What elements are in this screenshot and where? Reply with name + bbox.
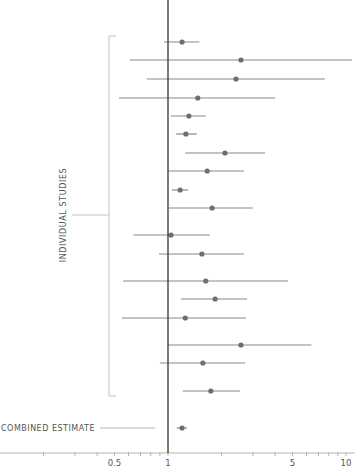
point-estimate (195, 95, 200, 100)
study-row (176, 131, 197, 136)
forest-plot: 0.51510 INDIVIDUAL STUDIES COMBINED ESTI… (0, 0, 355, 474)
study-row (185, 150, 265, 155)
study-row (130, 57, 352, 62)
study-row (183, 388, 240, 393)
study-row (171, 113, 206, 118)
study-row (159, 251, 244, 256)
study-row (160, 360, 245, 365)
individual-studies-bracket (72, 36, 116, 396)
point-estimate (168, 232, 173, 237)
combined-estimate-label: COMBINED ESTIMATE (1, 424, 95, 433)
point-estimate (238, 57, 243, 62)
individual-studies-label: INDIVIDUAL STUDIES (59, 168, 68, 262)
study-row (181, 296, 247, 301)
point-estimate (208, 388, 213, 393)
study-row (172, 187, 189, 192)
point-estimate (205, 168, 210, 173)
study-row (147, 76, 325, 81)
point-estimate (210, 205, 215, 210)
point-estimate (183, 131, 188, 136)
study-row (134, 232, 210, 237)
study-row (169, 205, 253, 210)
x-tick-label: 5 (290, 458, 295, 468)
x-tick-label: 10 (341, 458, 352, 468)
study-row (164, 39, 199, 44)
study-row (168, 342, 312, 347)
point-estimate (213, 296, 218, 301)
point-estimate (178, 187, 183, 192)
x-tick-label: 1 (165, 458, 170, 468)
point-estimate (238, 342, 243, 347)
study-row (168, 168, 244, 173)
point-estimate (233, 76, 238, 81)
point-estimate (199, 251, 204, 256)
x-axis: 0.51510 (0, 452, 355, 468)
x-tick-label: 0.5 (108, 458, 122, 468)
study-row (119, 95, 275, 100)
combined-estimate-row (100, 425, 187, 430)
point-estimate (183, 315, 188, 320)
point-estimate (179, 39, 184, 44)
point-estimate (200, 360, 205, 365)
point-estimate (203, 278, 208, 283)
combined-point (179, 425, 184, 430)
point-estimate (186, 113, 191, 118)
study-rows (119, 39, 352, 393)
study-row (122, 315, 246, 320)
point-estimate (222, 150, 227, 155)
study-row (123, 278, 288, 283)
